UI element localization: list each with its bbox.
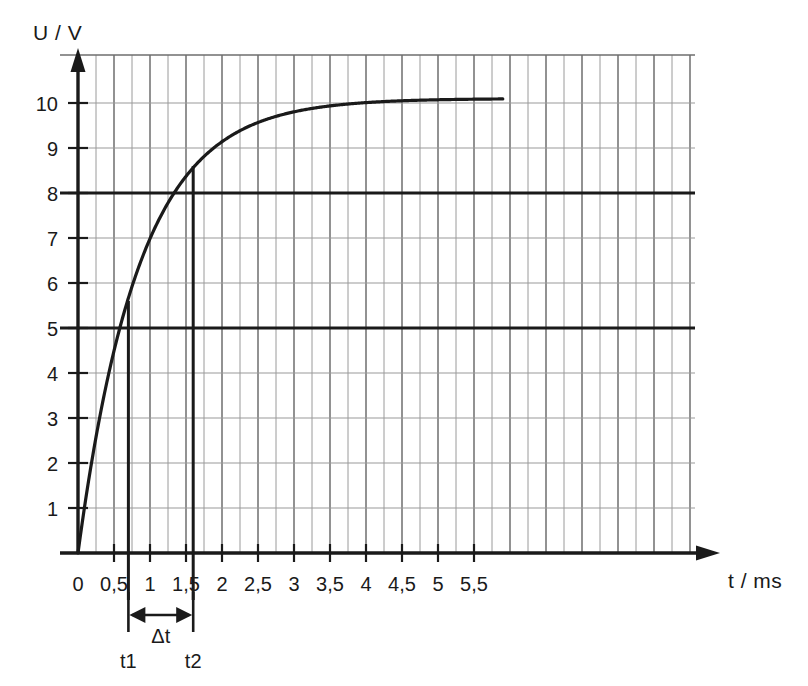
x-tick-label: 5 bbox=[432, 573, 443, 595]
y-tick-label: 5 bbox=[47, 318, 58, 340]
chart-figure: 00,511,522,533,544,555,5 12345678910 U /… bbox=[0, 0, 808, 686]
y-tick-label: 9 bbox=[47, 138, 58, 160]
x-tick-label: 4 bbox=[360, 573, 371, 595]
y-tick-label: 2 bbox=[47, 453, 58, 475]
y-tick-label: 1 bbox=[47, 498, 58, 520]
t1-label: t1 bbox=[120, 650, 137, 672]
y-tick-label: 8 bbox=[47, 183, 58, 205]
y-tick-label: 3 bbox=[47, 408, 58, 430]
delta-t-label: Δt bbox=[151, 625, 170, 647]
x-tick-label: 1 bbox=[144, 573, 155, 595]
y-axis-title: U / V bbox=[33, 21, 82, 44]
x-tick-label: 2,5 bbox=[244, 573, 272, 595]
x-tick-label: 3 bbox=[288, 573, 299, 595]
y-tick-label: 10 bbox=[36, 93, 58, 115]
x-tick-label: 0 bbox=[72, 573, 83, 595]
x-tick-label: 0,5 bbox=[100, 573, 128, 595]
y-tick-label: 4 bbox=[47, 363, 58, 385]
x-axis-title: t / ms bbox=[728, 569, 782, 592]
y-tick-label: 6 bbox=[47, 273, 58, 295]
y-tick-label: 7 bbox=[47, 228, 58, 250]
x-tick-label: 1,5 bbox=[172, 573, 200, 595]
x-tick-label: 5,5 bbox=[460, 573, 488, 595]
x-tick-label: 2 bbox=[216, 573, 227, 595]
t2-label: t2 bbox=[185, 650, 202, 672]
x-tick-label: 3,5 bbox=[316, 573, 344, 595]
x-tick-label: 4,5 bbox=[388, 573, 416, 595]
